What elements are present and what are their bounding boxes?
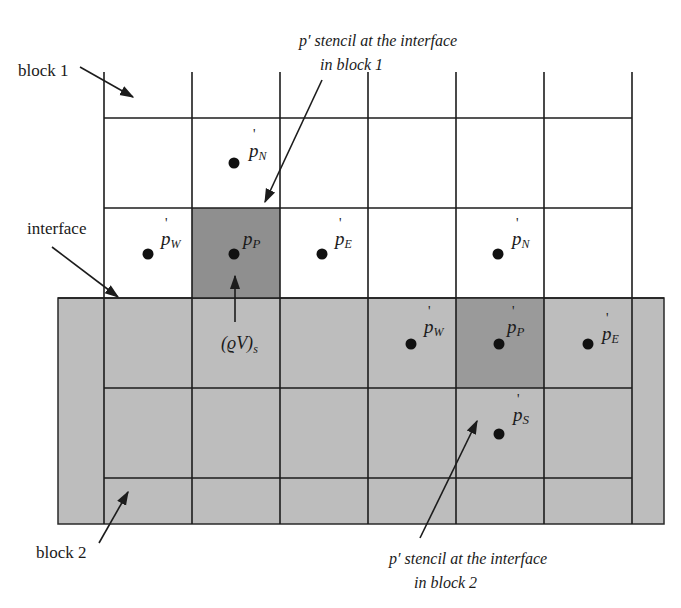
- arrow-block1: [80, 67, 133, 97]
- label-stencil-block1-line1: p′ stencil at the interface: [298, 32, 457, 50]
- point-block2-S: [494, 429, 505, 440]
- grid-diagram: pN ' pW ' pP pE ' pN ' pW ' pP ' pE ' pS…: [0, 0, 681, 608]
- label-stencil-block2-line2: in block 2: [414, 574, 477, 591]
- point-block1-W: [143, 249, 154, 260]
- label-block1-W: pW: [159, 228, 182, 251]
- point-block1-N: [229, 158, 240, 169]
- label-block1-N: pN: [247, 140, 268, 163]
- arrow-stencil-block1: [265, 80, 322, 202]
- label-block1-N2: pN: [510, 228, 531, 251]
- point-block1-E: [317, 249, 328, 260]
- label-block2: block 2: [36, 543, 87, 562]
- prime-mark: ': [253, 127, 256, 142]
- prime-mark: ': [517, 392, 520, 407]
- point-block2-P: [494, 339, 505, 350]
- point-block2-E: [583, 339, 594, 350]
- prime-mark: ': [606, 311, 609, 326]
- prime-mark: ': [516, 216, 519, 231]
- block2-region: [58, 298, 664, 524]
- label-interface: interface: [27, 219, 86, 238]
- point-block1-N2: [493, 249, 504, 260]
- prime-mark: ': [339, 216, 342, 231]
- arrow-interface: [52, 247, 118, 297]
- prime-mark: ': [165, 216, 168, 231]
- label-stencil-block2-line1: p′ stencil at the interface: [388, 550, 547, 568]
- prime-mark: ': [428, 304, 431, 319]
- label-mass-flux: (ϱV)s: [221, 333, 258, 356]
- label-block1: block 1: [18, 61, 69, 80]
- label-stencil-block1-line2: in block 1: [320, 56, 383, 73]
- prime-mark: ': [512, 304, 515, 319]
- point-block2-W: [406, 339, 417, 350]
- label-block1-E: pE: [333, 228, 353, 251]
- point-block1-P: [229, 249, 240, 260]
